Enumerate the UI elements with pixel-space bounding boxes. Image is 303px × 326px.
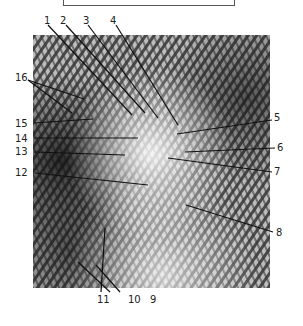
callout-label-13: 13 <box>15 147 28 157</box>
callout-label-8: 8 <box>276 228 282 238</box>
callout-label-5: 5 <box>274 113 280 123</box>
callout-label-11: 11 <box>97 295 110 305</box>
micrograph-photo <box>33 35 270 288</box>
callout-label-10: 10 <box>128 295 141 305</box>
callout-label-6: 6 <box>277 143 283 153</box>
callout-label-12: 12 <box>15 168 28 178</box>
micrograph-texture <box>33 35 270 288</box>
callout-label-14: 14 <box>15 134 28 144</box>
callout-label-7: 7 <box>274 167 280 177</box>
callout-label-2: 2 <box>60 16 66 26</box>
figure-caption-box: Photomicrograph No. 2 <box>63 0 235 6</box>
callout-label-15: 15 <box>15 119 28 129</box>
callout-label-4: 4 <box>110 16 116 26</box>
callout-label-1: 1 <box>44 16 50 26</box>
callout-label-3: 3 <box>83 16 89 26</box>
callout-label-16: 16 <box>15 73 28 83</box>
callout-label-9: 9 <box>150 295 156 305</box>
